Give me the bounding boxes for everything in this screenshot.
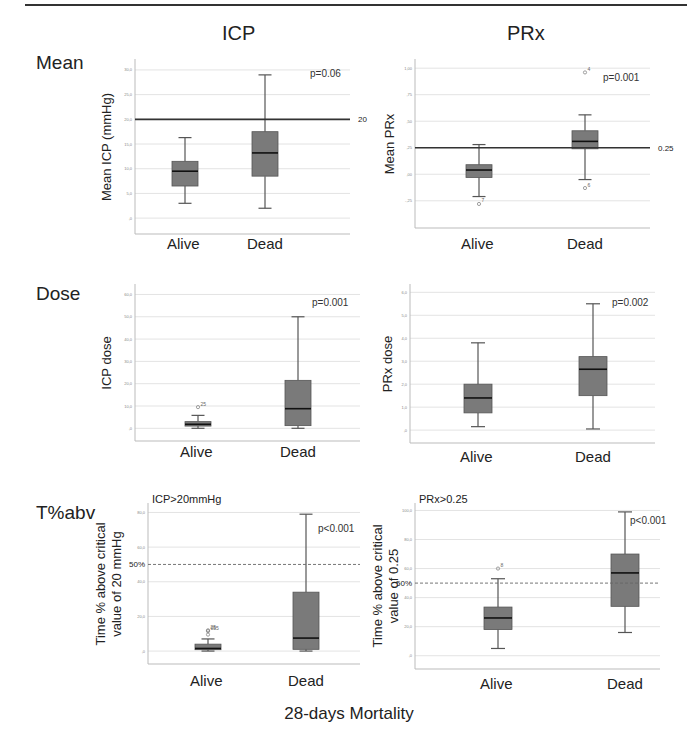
row-label-dose: Dose [36,283,80,305]
y-tick-label: 10,0 [124,166,133,171]
box-alive [464,343,492,427]
outlier-label: 7 [482,197,485,203]
x-category-dead: Dead [280,443,316,460]
y-tick-label: 60,0 [404,566,413,571]
y-axis-label: PRx dose [379,290,399,437]
chart-icp-mean: ,05,010,015,020,025,030,020Mean ICP (mmH… [90,50,360,255]
row-label-tabv: T%abv [36,502,95,524]
x-category-dead: Dead [575,448,611,465]
y-axis-label: Time % above criticalvalue of 0.25 [370,509,404,663]
y-tick-label: 3,0 [401,359,407,364]
p-value-annotation: p=0.002 [612,297,648,308]
y-tick-label: ,75 [406,92,412,97]
y-tick-label: -,25 [405,198,413,203]
p-value-annotation: p=0.001 [603,72,639,83]
y-tick-label: 2,0 [401,382,407,387]
threshold-note: PRx>0.25 [419,493,468,505]
chart-prx-tabv: ,020,040,060,080,0100,0850%Time % above … [370,485,660,695]
x-axis-title: 28-days Mortality [0,704,698,724]
y-tick-label: 30,0 [124,359,133,364]
box-alive: 25 [185,401,211,429]
y-tick-label: 1,0 [401,405,407,410]
x-category-alive: Alive [180,443,213,460]
x-category-alive: Alive [167,235,200,252]
y-axis-label: Mean ICP (mmHg) [98,65,118,228]
row-label-mean: Mean [36,52,84,74]
top-rule [25,4,687,6]
p-value-annotation: p=0.001 [312,297,348,308]
box-dead [293,514,319,651]
y-tick-label: 1,00 [404,66,413,71]
y-tick-label: 15,0 [124,142,133,147]
y-tick-label: ,25 [406,145,412,150]
chart-icp-dose: ,010,020,030,040,050,060,025ICP doseAliv… [90,275,360,470]
y-tick-label: 40,0 [124,337,133,342]
y-tick-label: 25,0 [124,92,133,97]
outlier-point [206,633,209,636]
y-tick-label: 80,0 [404,537,413,542]
y-tick-label: 5,0 [126,191,132,196]
y-tick-label: ,0 [409,653,413,658]
y-tick-label: 80,0 [137,510,146,515]
box-dead [285,317,311,429]
box-dead: 64 [572,66,598,190]
box-dead [579,304,607,429]
y-tick-label: 4,0 [401,336,407,341]
outlier-label: 6 [588,182,591,188]
box-alive: 7 [466,145,492,206]
outlier-point [583,71,586,74]
y-tick-label: 40,0 [137,579,146,584]
y-tick-label: ,50 [406,119,412,124]
threshold-note: ICP>20mmHg [152,493,221,505]
y-tick-label: 20,0 [124,117,133,122]
y-tick-label: ,00 [406,172,412,177]
outlier-point [477,202,480,205]
reference-line-label: 0.25 [658,144,674,153]
p-value-annotation: p<0.001 [630,515,666,526]
x-category-alive: Alive [480,675,513,692]
box-alive: 25055 [195,624,221,651]
p-value-annotation: p<0.001 [318,523,354,534]
outlier-label: 4 [588,66,591,72]
y-tick-label: 10,0 [124,404,133,409]
y-tick-label: 5,0 [401,313,407,318]
column-title-prx: PRx [507,22,545,45]
reference-line-label: 50% [129,560,145,569]
y-axis-label: Time % above criticalvalue of 20 mmHg [92,509,126,658]
y-tick-label: ,0 [142,649,146,654]
box-alive: 8 [484,562,512,648]
y-tick-label: 30,0 [124,67,133,72]
chart-prx-dose: ,01,02,03,04,05,06,0PRx doseAliveDeadp=0… [375,275,655,470]
y-tick-label: ,0 [129,426,133,431]
x-category-alive: Alive [461,235,494,252]
boxplot-svg: ,05,010,015,020,025,030,020 [90,50,360,255]
outlier-label: 8 [501,562,504,568]
outlier-point [583,186,586,189]
outlier-label: 055 [211,625,220,631]
y-tick-label: 20,0 [137,614,146,619]
y-tick-label: 50,0 [124,314,133,319]
x-category-alive: Alive [190,672,223,689]
y-tick-label: 20,0 [124,381,133,386]
x-category-alive: Alive [460,448,493,465]
boxplot-svg: ,020,040,060,080,0100,0850% [370,485,660,695]
chart-icp-tabv: ,020,040,060,080,02505550%Time % above c… [90,485,360,695]
outlier-label: 25 [201,401,207,407]
column-title-icp: ICP [222,22,255,45]
y-tick-label: 60,0 [124,292,133,297]
reference-line-label: 20 [358,115,367,124]
p-value-annotation: p=0.06 [310,68,341,79]
box-dead [611,512,639,633]
x-category-dead: Dead [247,235,283,252]
y-axis-label: ICP dose [98,290,118,435]
y-tick-label: ,0 [404,428,408,433]
x-category-dead: Dead [567,235,603,252]
y-tick-label: ,0 [129,216,133,221]
y-tick-label: 6,0 [401,290,407,295]
boxplot-svg: ,020,040,060,080,02505550% [90,485,360,695]
y-tick-label: 60,0 [137,545,146,550]
y-tick-label: 20,0 [404,624,413,629]
y-tick-label: 40,0 [404,595,413,600]
x-category-dead: Dead [288,672,324,689]
y-axis-label: Mean PRx [381,65,401,222]
